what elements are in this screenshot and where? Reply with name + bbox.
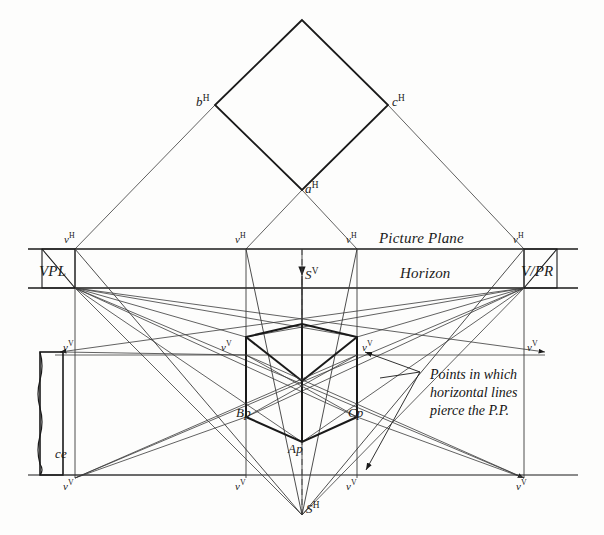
perspective-drawing: bH cH aH vH vH vH vH Picture Plane VPL V…	[0, 0, 604, 535]
label-ap: Ap	[288, 441, 303, 457]
vfront-marker-3: vV	[362, 339, 373, 353]
vfront-marker-2: vV	[221, 339, 232, 353]
pierce-annotation-line1: Points in which	[430, 366, 518, 384]
label-a-top: aH	[305, 180, 319, 197]
label-ce: ce	[55, 446, 67, 462]
vtop-marker-4: vH	[513, 231, 524, 245]
label-cp: Cp	[348, 405, 364, 421]
station-point-front-label: SV	[305, 266, 319, 283]
vtop-marker-3: vH	[346, 231, 357, 245]
ce-connector-lines	[63, 352, 246, 475]
vpr-label: V/PR	[521, 263, 553, 280]
perspective-cube	[246, 324, 357, 442]
pierce-annotation-line3: pierce the P.P.	[430, 402, 518, 420]
vfront-ground-marker-3: vV	[346, 478, 357, 492]
horizon-label: Horizon	[400, 265, 451, 282]
vfront-marker-4: vV	[527, 339, 538, 353]
vfront-ground-marker-1: vV	[63, 478, 74, 492]
thin-construction-lines	[75, 105, 524, 249]
pierce-annotation: Points in which horizontal lines pierce …	[430, 366, 518, 420]
picture-plane-label: Picture Plane	[379, 230, 464, 247]
vfront-ground-marker-2: vV	[235, 478, 246, 492]
vtop-marker-2: vH	[235, 231, 246, 245]
station-point-top-label: SH	[306, 500, 320, 517]
pierce-annotation-line2: horizontal lines	[430, 384, 518, 402]
plan-square	[215, 20, 388, 190]
vpl-label: VPL	[39, 263, 66, 280]
vtop-marker-1: vH	[64, 231, 75, 245]
label-b-top: bH	[196, 93, 210, 110]
label-bp: Bp	[236, 405, 251, 421]
vfront-ground-marker-4: vV	[516, 478, 527, 492]
label-c-top: cH	[392, 93, 405, 110]
vfront-marker-1: vV	[63, 339, 74, 353]
